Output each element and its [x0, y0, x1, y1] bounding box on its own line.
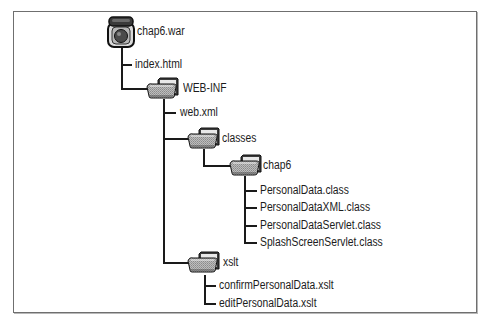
- tree-connector: [121, 88, 148, 90]
- folder-icon: [187, 251, 221, 277]
- folder-icon: [229, 154, 263, 180]
- folder-classes: classes: [222, 131, 256, 145]
- tree-line-xslt: [204, 275, 206, 304]
- file-personal-data-xml-class: PersonalDataXML.class: [260, 200, 370, 214]
- tree-connector: [203, 165, 230, 167]
- file-splash-screen-servlet-class: SplashScreenServlet.class: [260, 235, 383, 249]
- tree-connector: [121, 64, 132, 66]
- file-edit-personal-data-xslt: editPersonalData.xslt: [219, 296, 317, 310]
- file-personal-data-class: PersonalData.class: [260, 183, 349, 197]
- tree-line-chap6: [244, 176, 246, 243]
- file-index-html: index.html: [135, 57, 182, 71]
- tree-connector: [163, 138, 188, 140]
- tree-connector: [163, 112, 176, 114]
- tree-connector: [204, 285, 216, 287]
- tree-line-classes: [203, 149, 205, 166]
- tree-connector: [244, 242, 257, 244]
- tree-connector: [244, 190, 257, 192]
- folder-xslt: xslt: [223, 255, 238, 269]
- tree-connector: [244, 207, 257, 209]
- tree-line-root: [121, 48, 123, 89]
- file-web-xml: web.xml: [180, 105, 218, 119]
- tree-connector: [244, 225, 257, 227]
- file-personal-data-servlet-class: PersonalDataServlet.class: [260, 218, 381, 232]
- tree-line-web-inf: [163, 99, 165, 263]
- folder-web-inf: WEB-INF: [183, 81, 227, 95]
- folder-chap6: chap6: [263, 158, 291, 172]
- war-archive-icon: [106, 15, 136, 48]
- root-label: chap6.war: [137, 24, 185, 38]
- tree-connector: [204, 303, 216, 305]
- file-confirm-personal-data-xslt: confirmPersonalData.xslt: [219, 278, 334, 292]
- tree-connector: [163, 262, 189, 264]
